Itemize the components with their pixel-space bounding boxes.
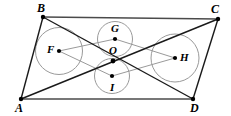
- center-dot-G: [113, 37, 117, 41]
- vertex-label-C: C: [211, 3, 219, 15]
- side-BC: [43, 17, 218, 19]
- center-dot-O: [111, 59, 116, 64]
- center-label-F: F: [47, 44, 54, 55]
- center-label-O: O: [109, 45, 117, 56]
- center-dot-I: [110, 74, 114, 78]
- center-dot-F: [57, 49, 61, 53]
- vertex-label-A: A: [15, 102, 23, 114]
- geometry-canvas: [0, 0, 231, 116]
- center-dot-H: [173, 56, 177, 60]
- geometry-figure: B C A D O F G H I: [0, 0, 231, 116]
- side-CD: [193, 19, 218, 99]
- vertex-label-B: B: [37, 2, 45, 14]
- vertex-dot-C: [216, 17, 220, 21]
- center-label-H: H: [180, 52, 189, 63]
- center-label-I: I: [110, 82, 114, 93]
- side-AB: [21, 17, 43, 99]
- center-label-G: G: [111, 23, 119, 34]
- vertex-dot-B: [41, 15, 45, 19]
- vertex-label-D: D: [190, 102, 199, 114]
